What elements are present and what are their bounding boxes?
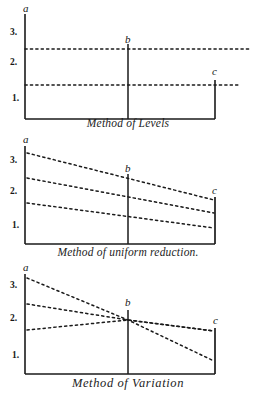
series-upper-line	[27, 153, 214, 200]
point-label-a: a	[23, 134, 29, 145]
plot-method-of-levels	[0, 0, 256, 134]
point-label-b: b	[125, 297, 131, 308]
series-lower-line	[27, 203, 214, 228]
point-label-b: b	[125, 34, 131, 45]
point-label-c: c	[213, 315, 218, 326]
point-label-a: a	[23, 262, 29, 273]
figure-method-of-levels: 3. 2. 1. a b c Method of Levels	[0, 0, 256, 134]
y-tick-3: 3.	[10, 156, 17, 166]
y-tick-3: 3.	[10, 28, 17, 38]
plot-method-of-uniform-reduction	[0, 134, 256, 262]
figure-caption: Method of uniform reduction.	[0, 246, 256, 258]
series-middle-line	[27, 178, 214, 213]
point-label-c: c	[212, 185, 217, 196]
y-tick-1: 1.	[12, 351, 19, 361]
y-tick-2: 2.	[10, 58, 17, 68]
point-label-b: b	[125, 163, 131, 174]
series-descending-steep	[27, 278, 214, 361]
point-label-c: c	[212, 66, 217, 77]
y-tick-2: 2.	[10, 314, 17, 324]
y-tick-2: 2.	[10, 187, 17, 197]
series-ascending	[27, 320, 214, 331]
figure-method-of-variation: 3. 2. 1. a b c Method of Variation	[0, 262, 256, 396]
figure-method-of-uniform-reduction: 3. 2. 1. a b c Method of uniform reducti…	[0, 134, 256, 262]
y-tick-1: 1.	[12, 221, 19, 231]
figure-page: 3. 2. 1. a b c Method of Levels 3. 2. 1.…	[0, 0, 256, 396]
y-tick-1: 1.	[12, 94, 19, 104]
y-tick-3: 3.	[10, 281, 17, 291]
figure-caption: Method of Variation	[0, 376, 256, 391]
point-label-a: a	[23, 3, 29, 14]
figure-caption: Method of Levels	[0, 117, 256, 129]
